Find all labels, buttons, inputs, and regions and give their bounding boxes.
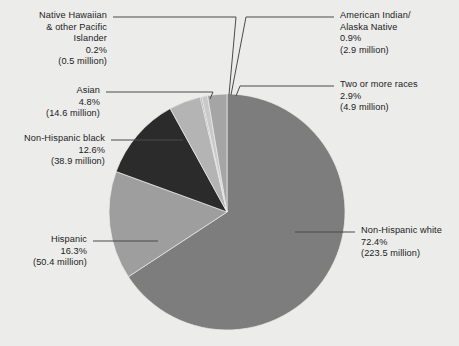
label-two-or-more-races-count: (4.9 million) <box>340 102 418 114</box>
label-hispanic-percent: 16.3% <box>33 246 87 258</box>
label-non-hispanic-white-name: Non-Hispanic white <box>361 225 442 237</box>
label-two-or-more-races-name: Two or more races <box>340 79 418 91</box>
label-american-indian-name-line1: American Indian/ <box>340 10 411 22</box>
label-hispanic: Hispanic 16.3% (50.4 million) <box>33 234 87 269</box>
label-native-hawaiian-name-line2: & other Pacific <box>39 22 107 34</box>
leader-line-native-hawaiian <box>113 17 236 95</box>
label-asian: Asian 4.8% (14.6 million) <box>46 85 100 120</box>
pie-slice-group <box>109 94 345 330</box>
label-non-hispanic-black: Non-Hispanic black 12.6% (38.9 million) <box>24 133 105 168</box>
label-non-hispanic-black-count: (38.9 million) <box>24 156 105 168</box>
label-native-hawaiian-percent: 0.2% <box>39 45 107 57</box>
label-asian-percent: 4.8% <box>46 97 100 109</box>
label-hispanic-name: Hispanic <box>33 234 87 246</box>
label-american-indian-name-line2: Alaska Native <box>340 22 411 34</box>
label-american-indian-percent: 0.9% <box>340 33 411 45</box>
label-non-hispanic-black-percent: 12.6% <box>24 145 105 157</box>
leader-line-two-or-more <box>236 86 334 96</box>
label-non-hispanic-white-percent: 72.4% <box>361 237 442 249</box>
leader-line-american-indian <box>231 17 334 95</box>
label-two-or-more-races: Two or more races 2.9% (4.9 million) <box>340 79 418 114</box>
label-american-indian: American Indian/ Alaska Native 0.9% (2.9… <box>340 10 411 56</box>
label-american-indian-count: (2.9 million) <box>340 45 411 57</box>
label-asian-name: Asian <box>46 85 100 97</box>
label-non-hispanic-white-count: (223.5 million) <box>361 248 442 260</box>
label-two-or-more-races-percent: 2.9% <box>340 91 418 103</box>
label-non-hispanic-white: Non-Hispanic white 72.4% (223.5 million) <box>361 225 442 260</box>
label-native-hawaiian-name-line3: Islander <box>39 33 107 45</box>
label-hispanic-count: (50.4 million) <box>33 257 87 269</box>
label-non-hispanic-black-name: Non-Hispanic black <box>24 133 105 145</box>
pie-chart-figure: Native Hawaiian & other Pacific Islander… <box>0 0 459 346</box>
label-native-hawaiian-name-line1: Native Hawaiian <box>39 10 107 22</box>
label-native-hawaiian-count: (0.5 million) <box>39 56 107 68</box>
label-asian-count: (14.6 million) <box>46 108 100 120</box>
label-native-hawaiian: Native Hawaiian & other Pacific Islander… <box>39 10 107 68</box>
